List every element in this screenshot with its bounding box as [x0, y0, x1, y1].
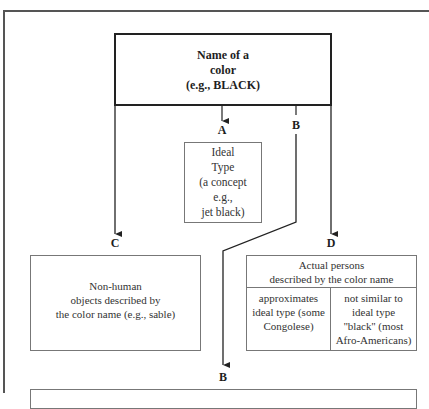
non-human-objects-box: Non-human objects described by the color… [30, 255, 201, 351]
main-box-line-1: Name of a [186, 48, 260, 63]
outer-frame-left-border [3, 10, 5, 393]
bottom-b-box [30, 389, 417, 409]
ideal-type-line-4: e.g., [199, 190, 247, 205]
non-human-line-1: Non-human [56, 279, 175, 293]
main-box-line-2: color [186, 63, 260, 78]
not-similar-line-2: ideal type [331, 305, 416, 319]
approximates-line-2: ideal type (some [247, 305, 330, 319]
not-similar-cell: not similar to ideal type ''black'' (mos… [331, 288, 416, 350]
not-similar-line-4: Afro-Americans) [331, 333, 416, 347]
ideal-type-line-3: (a concept [199, 175, 247, 190]
ideal-type-box: Ideal Type (a concept e.g., jet black) [184, 142, 262, 223]
ideal-type-line-2: Type [199, 160, 247, 175]
not-similar-line-1: not similar to [331, 291, 416, 305]
outer-frame-top-border [3, 10, 429, 12]
actual-persons-line-2: described by the color name [269, 272, 393, 286]
approximates-line-3: Congolese) [247, 319, 330, 333]
color-name-box: Name of a color (e.g., BLACK) [114, 33, 332, 106]
ideal-type-line-1: Ideal [199, 145, 247, 160]
main-box-line-3: (e.g., BLACK) [186, 78, 260, 93]
approximates-ideal-cell: approximates ideal type (some Congolese) [247, 288, 331, 350]
non-human-line-3: the color name (e.g., sable) [56, 307, 175, 321]
actual-persons-header: Actual persons described by the color na… [247, 256, 416, 288]
branch-label-b-bottom: B [215, 371, 231, 383]
branch-label-a: A [214, 124, 230, 136]
approximates-line-1: approximates [247, 291, 330, 305]
branch-label-b-top: B [288, 119, 304, 131]
not-similar-line-3: ''black'' (most [331, 319, 416, 333]
ideal-type-line-5: jet black) [199, 205, 247, 220]
branch-label-d: D [323, 237, 339, 249]
non-human-line-2: objects described by [56, 293, 175, 307]
actual-persons-box: Actual persons described by the color na… [246, 255, 417, 351]
actual-persons-line-1: Actual persons [269, 258, 393, 272]
branch-label-c: C [107, 237, 123, 249]
actual-persons-columns: approximates ideal type (some Congolese)… [247, 288, 416, 350]
